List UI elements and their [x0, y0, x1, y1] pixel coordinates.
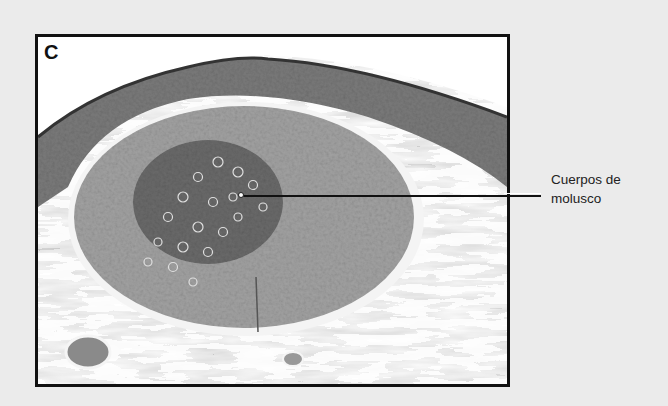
annotation-label-line2: molusco — [551, 189, 621, 208]
panel-letter: C — [44, 41, 58, 64]
annotation-label: Cuerpos de molusco — [551, 170, 621, 208]
annotation-leader-line — [241, 195, 541, 197]
histology-image-frame: C — [35, 34, 510, 387]
histology-micrograph — [38, 37, 507, 384]
leader-line-highlight — [504, 193, 541, 194]
annotation-label-line1: Cuerpos de — [551, 170, 621, 189]
annotation-pointer-dot — [238, 192, 244, 198]
